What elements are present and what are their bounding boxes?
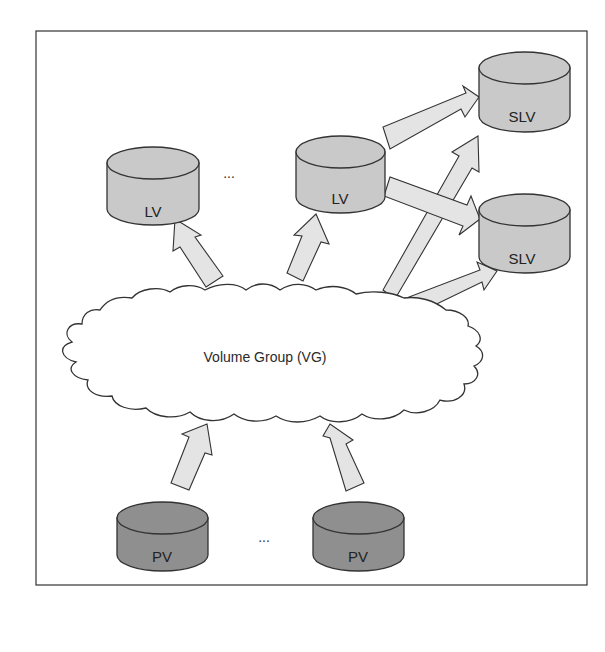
pv-cylinder-1: PV [117,502,208,571]
lv-cylinder-1: LV [107,147,199,225]
ellipsis-top: ... [223,165,235,181]
lv-label-2: LV [331,190,348,207]
slv-cylinder-2: SLV [479,194,570,273]
lvm-diagram: Volume Group (VG) LV ... LV SLV SLV PV [0,0,605,652]
slv-cylinder-1: SLV [479,52,570,132]
pv-label-1: PV [152,548,172,565]
pv-cylinder-2: PV [313,502,404,571]
ellipsis-bottom: ... [258,529,270,545]
pv-label-2: PV [348,548,368,565]
lv-label-1: LV [144,203,161,220]
volume-group-cloud: Volume Group (VG) [63,284,483,422]
lv-cylinder-2: LV [296,136,385,213]
slv-label-1: SLV [508,108,535,125]
volume-group-label: Volume Group (VG) [204,349,327,365]
slv-label-2: SLV [508,250,535,267]
